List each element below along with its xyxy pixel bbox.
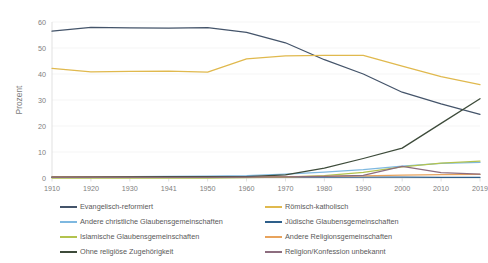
legend-column-left: Evangelisch-reformiertAndere christliche… <box>60 199 223 259</box>
x-axis-tick-label: 1930 <box>122 184 138 193</box>
legend-item-label: Religion/Konfession unbekannt <box>285 248 386 255</box>
y-axis-tick-label: 40 <box>38 70 46 79</box>
x-axis-tick-label: 1970 <box>277 184 293 193</box>
x-axis-tick-label: 1920 <box>83 184 99 193</box>
legend-color-swatch <box>60 206 77 208</box>
x-axis-tick-label: 1960 <box>239 184 255 193</box>
x-axis-tick-label: 2000 <box>394 184 410 193</box>
legend-item[interactable]: Religion/Konfession unbekannt <box>265 244 399 259</box>
legend-item-label: Jüdische Glaubensgemeinschaften <box>285 218 399 225</box>
x-axis-tick-label: 2010 <box>433 184 449 193</box>
series-line <box>52 27 480 114</box>
x-axis-tick-label: 1910 <box>44 184 60 193</box>
legend-color-swatch <box>60 221 77 223</box>
legend-color-swatch <box>265 206 282 208</box>
y-axis-tick-label: 10 <box>38 148 46 157</box>
legend-color-swatch <box>60 236 77 238</box>
series-line <box>52 55 480 84</box>
y-axis-tick-label: 60 <box>38 18 46 27</box>
y-axis-tick-label: 30 <box>38 96 46 105</box>
legend-item-label: Andere christliche Glaubensgemeinschafte… <box>80 218 223 225</box>
legend-item[interactable]: Evangelisch-reformiert <box>60 199 223 214</box>
x-axis-tick-label: 2019 <box>472 184 488 193</box>
y-axis-tick-label: 0 <box>42 174 46 183</box>
legend-item[interactable]: Jüdische Glaubensgemeinschaften <box>265 214 399 229</box>
legend-item-label: Andere Religionsgemeinschaften <box>285 233 392 240</box>
legend-item-label: Islamische Glaubensgemeinschaften <box>80 233 199 240</box>
legend-item[interactable]: Islamische Glaubensgemeinschaften <box>60 229 223 244</box>
y-axis-tick-label: 20 <box>38 122 46 131</box>
legend-color-swatch <box>265 251 282 253</box>
legend-item[interactable]: Ohne religiöse Zugehörigkeit <box>60 244 223 259</box>
line-chart: 0102030405060191019201930194119501960197… <box>0 0 488 263</box>
legend-column-right: Römisch-katholischJüdische Glaubensgemei… <box>265 199 399 259</box>
x-axis-tick-label: 1941 <box>161 184 177 193</box>
legend-item[interactable]: Andere Religionsgemeinschaften <box>265 229 399 244</box>
chart-plot-area: 0102030405060191019201930194119501960197… <box>0 0 488 200</box>
legend-color-swatch <box>265 236 282 238</box>
legend-item-label: Römisch-katholisch <box>285 203 348 210</box>
legend-item[interactable]: Andere christliche Glaubensgemeinschafte… <box>60 214 223 229</box>
chart-legend: Evangelisch-reformiertAndere christliche… <box>60 199 480 259</box>
legend-item-label: Ohne religiöse Zugehörigkeit <box>80 248 173 255</box>
legend-color-swatch <box>265 221 282 223</box>
legend-item[interactable]: Römisch-katholisch <box>265 199 399 214</box>
x-axis-tick-label: 1980 <box>316 184 332 193</box>
x-axis-tick-label: 1950 <box>200 184 216 193</box>
legend-color-swatch <box>60 251 77 253</box>
y-axis-tick-label: 50 <box>38 44 46 53</box>
legend-item-label: Evangelisch-reformiert <box>80 203 153 210</box>
x-axis-tick-label: 1990 <box>355 184 371 193</box>
y-axis-title: Prozent <box>14 85 24 115</box>
